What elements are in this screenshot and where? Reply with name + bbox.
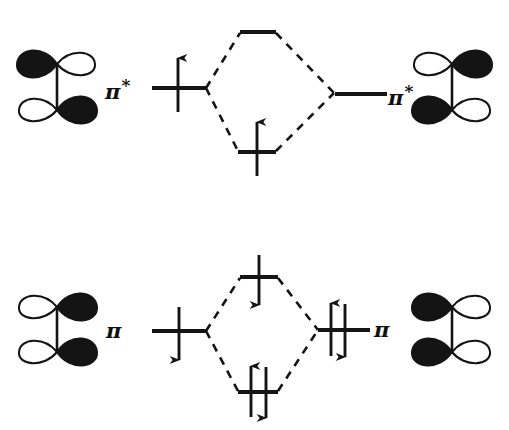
mo-diagram-canvas: π* π* π π	[0, 0, 509, 430]
corr-line-left-down	[206, 88, 238, 151]
lobe-bottom-left-empty	[19, 99, 57, 122]
label-pi-star-left: π*	[105, 77, 130, 102]
lobe-top-left-filled	[412, 293, 452, 320]
corr-line-left-down	[206, 331, 238, 391]
lobe-bottom-left-empty	[19, 341, 57, 364]
label-pi-left: π	[106, 320, 121, 341]
label-pi-right: π	[374, 319, 389, 340]
lower-correlation-lines	[206, 278, 318, 391]
corr-line-right-down	[278, 330, 318, 391]
orbital-top-left	[17, 50, 97, 123]
lobe-top-right-empty	[57, 53, 95, 76]
lobe-bottom-right-filled	[57, 338, 97, 365]
lobe-bottom-right-empty	[452, 341, 490, 364]
label-pi-right-glyph: π	[374, 317, 389, 342]
label-pi-star-right: π*	[388, 83, 413, 108]
label-pi-left-glyph: π	[106, 318, 121, 343]
corr-line-right-up	[278, 278, 318, 330]
lobe-top-right-filled	[452, 50, 492, 77]
corr-line-right-up	[276, 33, 334, 93]
lobe-bottom-left-filled	[412, 96, 452, 123]
label-pi-star-left-glyph: π	[105, 79, 120, 104]
diagram-svg	[0, 0, 509, 430]
orbital-bottom-left	[19, 293, 97, 365]
corr-line-left-up	[206, 33, 240, 88]
lobe-top-left-filled	[17, 50, 57, 77]
upper-correlation-lines	[206, 33, 334, 151]
lobe-bottom-left-filled	[412, 338, 452, 365]
lobe-top-right-filled	[57, 293, 97, 320]
label-pi-star-right-glyph: π	[388, 85, 403, 110]
lobe-bottom-right-filled	[57, 96, 97, 123]
lobe-top-left-empty	[414, 53, 452, 76]
corr-line-right-down	[276, 93, 334, 151]
upper-energy-levels	[152, 32, 387, 152]
upper-electrons	[178, 58, 257, 176]
lobe-top-left-empty	[19, 296, 57, 319]
label-pi-star-right-asterisk: *	[404, 81, 413, 101]
lobe-bottom-right-empty	[452, 99, 490, 122]
orbital-top-right	[412, 50, 492, 123]
lobe-top-right-empty	[452, 296, 490, 319]
label-pi-star-left-asterisk: *	[121, 75, 130, 95]
corr-line-left-up	[206, 278, 240, 331]
orbital-bottom-right	[412, 293, 490, 365]
lower-energy-levels	[152, 277, 370, 392]
